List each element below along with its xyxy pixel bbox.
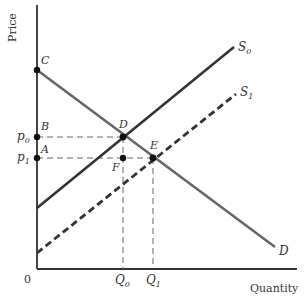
- y-axis-label: Price: [6, 13, 19, 42]
- point-b: [34, 134, 40, 140]
- p0-label: p0: [17, 129, 30, 145]
- supply-curve-s1: [37, 94, 236, 253]
- q0-label: Q0: [115, 273, 130, 289]
- point-f: [120, 155, 126, 161]
- point-c: [34, 67, 40, 73]
- supply-demand-diagram: Price Quantity 0 S0 S1 D C B A D E F p0 …: [0, 0, 307, 305]
- origin-label: 0: [24, 273, 31, 286]
- point-a: [34, 155, 40, 161]
- point-d-label: D: [118, 118, 128, 131]
- point-c-label: C: [41, 54, 50, 67]
- point-d: [120, 134, 127, 141]
- s1-label: S1: [240, 85, 253, 101]
- p1-label: p1: [17, 150, 30, 166]
- x-axis-label: Quantity: [250, 282, 299, 295]
- point-a-label: A: [40, 143, 49, 156]
- s0-label: S0: [238, 40, 251, 56]
- supply-curve-s0: [37, 47, 234, 208]
- point-f-label: F: [111, 161, 120, 174]
- point-e-label: E: [149, 139, 158, 152]
- point-b-label: B: [40, 120, 49, 133]
- demand-label: D: [278, 244, 289, 258]
- q1-label: Q1: [146, 273, 161, 289]
- point-e: [150, 155, 157, 162]
